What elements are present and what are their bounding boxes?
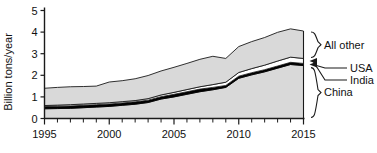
brace-all-other	[311, 32, 321, 57]
arrow-india	[313, 61, 347, 80]
brace-china	[311, 68, 321, 118]
x-axis-ticks	[45, 119, 304, 125]
y-tick-label: 5	[31, 5, 37, 17]
stacked-area-chart: 012345 19952000200520102015 Billion tons…	[0, 0, 377, 153]
x-tick-label: 1995	[32, 128, 56, 140]
y-axis-tick-labels: 012345	[31, 5, 37, 125]
legend-label-usa: USA	[350, 62, 373, 74]
legend-label-india: India	[350, 74, 375, 86]
chart-container: 012345 19952000200520102015 Billion tons…	[0, 0, 377, 153]
x-tick-label: 2005	[162, 128, 186, 140]
plot-areas	[45, 29, 304, 119]
y-tick-label: 3	[31, 48, 37, 60]
legend-label-china: China	[324, 86, 354, 98]
y-axis-title: Billion tons/year	[2, 33, 14, 111]
x-tick-label: 2000	[97, 128, 121, 140]
x-tick-label: 2015	[291, 128, 315, 140]
x-axis-tick-labels: 19952000200520102015	[32, 128, 315, 140]
y-tick-label: 0	[31, 113, 37, 125]
legend: All other USA India China	[304, 31, 375, 118]
y-tick-label: 4	[31, 26, 37, 38]
x-tick-label: 2010	[227, 128, 251, 140]
y-tick-label: 2	[31, 69, 37, 81]
arrow-usa	[313, 65, 347, 69]
legend-label-all-other: All other	[324, 39, 365, 51]
y-tick-label: 1	[31, 91, 37, 103]
